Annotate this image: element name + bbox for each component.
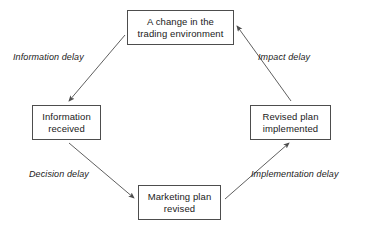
edge-label-impact-delay: Impact delay: [258, 52, 310, 63]
edge-label-information-delay: Information delay: [13, 52, 84, 63]
cycle-diagram: A change in the trading environment Info…: [0, 0, 368, 235]
node-information-received: Information received: [32, 105, 101, 140]
node-change-in-trading-environment: A change in the trading environment: [127, 10, 234, 45]
node-plan-label: Revised plan implemented: [251, 111, 330, 135]
node-change-label: A change in the trading environment: [128, 16, 233, 40]
edge-label-decision-delay: Decision delay: [29, 169, 89, 180]
node-revised-label: Marketing plan revised: [139, 191, 220, 215]
node-marketing-plan-revised: Marketing plan revised: [138, 185, 221, 220]
edge-label-implementation-delay: Implementation delay: [251, 169, 339, 180]
edge-change-to-info: [69, 35, 125, 101]
node-info-label: Information received: [33, 111, 100, 135]
edge-plan-to-change: [237, 26, 291, 101]
node-revised-plan-implemented: Revised plan implemented: [250, 105, 331, 140]
